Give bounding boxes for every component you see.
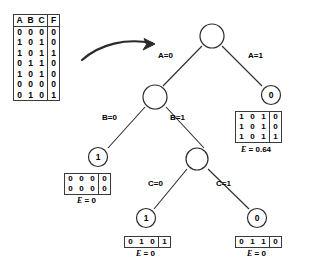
cell-a: 1 xyxy=(14,37,26,48)
cell-f: 0 xyxy=(270,112,282,123)
table-row: 1 0 1 0 xyxy=(236,112,282,123)
entropy-symbol: E xyxy=(136,249,141,258)
cell-c: 1 xyxy=(36,48,48,59)
edge-label-a-0: A=0 xyxy=(158,52,173,60)
node-b-split xyxy=(143,85,167,109)
subtable-c1: 0 1 1 0 xyxy=(235,236,282,248)
table-row: 0 0 0 0 xyxy=(65,174,111,185)
cell-b: 0 xyxy=(247,122,258,132)
cell-a: 1 xyxy=(236,132,248,143)
truth-table-header-row: A B C F xyxy=(14,15,60,27)
cell-c: 1 xyxy=(36,69,48,80)
cell-b: 0 xyxy=(247,112,258,123)
cell-c: 1 xyxy=(258,112,270,123)
cell-b: 1 xyxy=(136,237,147,248)
entropy-symbol: E xyxy=(241,145,246,154)
edge-label-c-1: C=1 xyxy=(216,180,231,188)
entropy-value: = 0.64 xyxy=(249,145,271,154)
table-row: 0 0 0 0 xyxy=(14,79,60,90)
diagram-canvas: A B C F 0 0 0 0 1 0 1 0 1 0 1 xyxy=(0,0,310,271)
cell-a: 0 xyxy=(65,174,77,185)
table-row: 1 0 1 0 xyxy=(14,69,60,80)
cell-f: 0 xyxy=(48,58,60,69)
cell-c: 0 xyxy=(87,184,99,195)
cell-b: 0 xyxy=(247,132,258,143)
cell-a: 0 xyxy=(125,237,137,248)
entropy-symbol: E xyxy=(77,196,82,205)
cell-f: 0 xyxy=(270,122,282,132)
cell-f: 1 xyxy=(48,90,60,101)
table-row: 0 0 0 0 xyxy=(65,184,111,195)
curved-arrow xyxy=(82,39,155,61)
truth-table-header-a: A xyxy=(14,15,26,27)
cell-a: 0 xyxy=(65,184,77,195)
cell-f: 0 xyxy=(99,174,111,185)
cell-b: 1 xyxy=(25,58,36,69)
node-c-split xyxy=(186,148,208,170)
cell-a: 1 xyxy=(236,122,248,132)
cell-c: 1 xyxy=(36,37,48,48)
node-root xyxy=(200,24,224,48)
cell-b: 0 xyxy=(25,37,36,48)
cell-c: 1 xyxy=(258,237,270,248)
table-row: 1 0 1 0 xyxy=(236,122,282,132)
entropy-label-c0: E = 0 xyxy=(136,249,155,258)
table-row: 0 1 1 0 xyxy=(236,237,282,248)
table-row: 0 1 0 1 xyxy=(125,237,171,248)
truth-table-header-f: F xyxy=(48,15,60,27)
subtable-c0: 0 1 0 1 xyxy=(124,236,171,248)
cell-a: 0 xyxy=(14,79,26,90)
cell-c: 0 xyxy=(36,26,48,37)
cell-a: 0 xyxy=(14,58,26,69)
cell-c: 0 xyxy=(147,237,159,248)
cell-b: 1 xyxy=(247,237,258,248)
table-row: 0 0 0 0 xyxy=(14,26,60,37)
cell-c: 1 xyxy=(258,132,270,143)
cell-a: 0 xyxy=(14,90,26,101)
cell-b: 0 xyxy=(25,26,36,37)
edge-label-b-1: B=1 xyxy=(170,114,185,122)
truth-table-header-c: C xyxy=(36,15,48,27)
cell-f: 0 xyxy=(48,79,60,90)
node-value-a1-leaf: 0 xyxy=(263,91,279,100)
entropy-value: = 0 xyxy=(85,196,96,205)
entropy-symbol: E xyxy=(247,249,252,258)
cell-a: 1 xyxy=(14,48,26,59)
edge-line-c-1 xyxy=(208,169,249,209)
cell-f: 0 xyxy=(48,37,60,48)
cell-b: 0 xyxy=(25,79,36,90)
table-row: 0 1 0 1 xyxy=(14,90,60,101)
entropy-label-b0: E = 0 xyxy=(77,196,96,205)
edge-line-c-0 xyxy=(154,169,187,209)
truth-table: A B C F 0 0 0 0 1 0 1 0 1 0 1 xyxy=(13,14,60,101)
table-row: 1 0 1 1 xyxy=(14,48,60,59)
edge-label-c-0: C=0 xyxy=(148,180,163,188)
cell-c: 0 xyxy=(87,174,99,185)
entropy-value: = 0 xyxy=(255,249,266,258)
node-value-b0-leaf: 1 xyxy=(90,153,106,162)
cell-a: 0 xyxy=(236,237,248,248)
cell-b: 0 xyxy=(76,184,87,195)
entropy-label-a1: E = 0.64 xyxy=(241,145,271,154)
cell-c: 1 xyxy=(258,122,270,132)
cell-f: 1 xyxy=(270,132,282,143)
cell-f: 0 xyxy=(270,237,282,248)
cell-f: 1 xyxy=(48,48,60,59)
subtable-b0: 0 0 0 0 0 0 0 0 xyxy=(64,173,111,195)
cell-c: 0 xyxy=(36,79,48,90)
subtable-a1: 1 0 1 0 1 0 1 0 1 0 1 1 xyxy=(235,111,282,143)
cell-b: 0 xyxy=(25,69,36,80)
cell-c: 1 xyxy=(36,58,48,69)
cell-c: 0 xyxy=(36,90,48,101)
entropy-label-c1: E = 0 xyxy=(247,249,266,258)
table-row: 1 0 1 0 xyxy=(14,37,60,48)
cell-a: 1 xyxy=(236,112,248,123)
table-row: 0 1 1 0 xyxy=(14,58,60,69)
edge-label-b-0: B=0 xyxy=(102,114,117,122)
cell-f: 1 xyxy=(159,237,171,248)
table-row: 1 0 1 1 xyxy=(236,132,282,143)
cell-f: 0 xyxy=(99,184,111,195)
node-value-c0-leaf: 1 xyxy=(138,214,154,223)
edge-label-a-1: A=1 xyxy=(248,52,263,60)
truth-table-header-b: B xyxy=(25,15,36,27)
